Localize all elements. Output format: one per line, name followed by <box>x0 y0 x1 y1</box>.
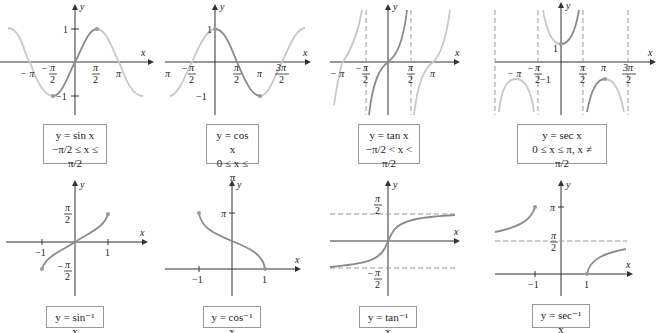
y-label: y <box>79 1 85 12</box>
svg-text:y: y <box>79 179 85 190</box>
caption-tan: y = tan x −π/2 < x < π/2 <box>358 124 420 164</box>
panel-arctan: y x π 2 −π 2 y = tan⁻¹ x <box>330 170 495 333</box>
svg-text:y: y <box>565 179 571 190</box>
svg-text:x: x <box>139 227 145 238</box>
x-axis-arrow-icon <box>142 239 148 245</box>
svg-text:y: y <box>236 179 242 190</box>
svg-text:3π: 3π <box>622 62 634 73</box>
svg-text:π: π <box>375 193 381 204</box>
panel-sin: y x 1 −1 − π − π 2 π 2 π y = sin x −π/2 … <box>0 0 165 170</box>
svg-text:−: − <box>355 63 362 74</box>
svg-text:1: 1 <box>584 279 589 290</box>
svg-text:y: y <box>219 1 225 12</box>
svg-text:2: 2 <box>580 74 585 85</box>
y-axis-arrow-icon <box>558 2 564 8</box>
svg-text:1: 1 <box>105 247 110 258</box>
caption-arccos: y = cos⁻¹ x <box>203 306 261 328</box>
x-axis-arrow-icon <box>295 266 301 272</box>
svg-text:π: π <box>221 208 227 219</box>
svg-text:−1: −1 <box>35 247 46 258</box>
svg-text:x: x <box>647 47 653 58</box>
svg-text:1: 1 <box>553 43 558 54</box>
svg-text:π: π <box>65 259 71 270</box>
y-axis-arrow-icon <box>212 4 218 10</box>
x-axis-arrow-icon <box>454 238 460 244</box>
panel-sec: y x 1 −1 − π −π 2 π 2 π 3π 2 y = sec x 0… <box>495 0 660 170</box>
svg-text:π: π <box>189 62 195 73</box>
svg-text:−1: −1 <box>56 91 67 102</box>
svg-text:π: π <box>551 230 557 241</box>
svg-text:1: 1 <box>262 274 267 285</box>
svg-text:2: 2 <box>93 74 98 85</box>
svg-text:3π: 3π <box>275 62 287 73</box>
svg-text:π: π <box>50 62 56 73</box>
svg-text:2: 2 <box>279 74 284 85</box>
y-axis-arrow-icon <box>385 4 391 10</box>
svg-text:x: x <box>294 254 300 265</box>
y-axis-arrow-icon <box>72 4 78 10</box>
svg-text:2: 2 <box>50 74 55 85</box>
svg-text:−: − <box>181 63 188 74</box>
svg-text:1: 1 <box>63 24 68 35</box>
svg-text:−1: −1 <box>540 74 551 85</box>
svg-text:− π: − π <box>507 68 522 79</box>
x-axis-arrow-icon <box>650 59 656 65</box>
svg-text:π: π <box>165 68 171 79</box>
svg-text:2: 2 <box>626 74 631 85</box>
y-axis-arrow-icon <box>558 180 564 186</box>
svg-text:π: π <box>375 267 381 278</box>
x-axis-arrow-icon <box>627 271 633 277</box>
panel-cos: y x 1 −1 π −π 2 π 2 π 3π 2 y = cos x 0 ≤… <box>165 0 330 170</box>
svg-text:−1: −1 <box>192 274 203 285</box>
svg-text:π: π <box>550 202 556 213</box>
y-axis-arrow-icon <box>72 180 78 186</box>
y-axis-arrow-icon <box>385 180 391 186</box>
caption-arcsec: y = sec⁻¹ x <box>532 304 590 328</box>
panel-arcsec: y x π π 2 −1 1 y = sec⁻¹ x <box>495 170 660 333</box>
caption-sec: y = sec x 0 ≤ x ≤ π, x ≠ π/2 <box>517 124 607 164</box>
svg-text:−: − <box>41 63 48 74</box>
svg-text:y: y <box>392 1 398 12</box>
svg-text:x: x <box>302 47 308 58</box>
svg-text:2: 2 <box>408 74 413 85</box>
svg-text:−1: −1 <box>528 279 539 290</box>
svg-text:x: x <box>625 259 631 270</box>
svg-text:x: x <box>454 47 460 58</box>
caption-arcsin: y = sin⁻¹ x <box>46 306 104 328</box>
svg-text:2: 2 <box>65 214 70 225</box>
panel-arcsin: y x −1 1 π 2 −π 2 y = sin⁻¹ x <box>0 170 165 333</box>
svg-text:1: 1 <box>207 24 212 35</box>
svg-text:2: 2 <box>551 242 556 253</box>
svg-text:π: π <box>93 62 99 73</box>
caption-arctan: y = tan⁻¹ x <box>359 306 417 328</box>
svg-text:π: π <box>580 62 586 73</box>
svg-text:−: − <box>367 268 374 279</box>
panel-arccos: y x π −1 1 y = cos⁻¹ x <box>165 170 330 333</box>
y-axis-arrow-icon <box>229 180 235 186</box>
svg-text:y: y <box>392 179 398 190</box>
svg-text:y: y <box>565 0 571 11</box>
svg-text:2: 2 <box>234 74 239 85</box>
svg-text:−1: −1 <box>196 91 207 102</box>
svg-text:2: 2 <box>189 74 194 85</box>
x-axis-arrow-icon <box>305 59 311 65</box>
x-axis-arrow-icon <box>148 59 154 65</box>
x-label: x <box>140 47 146 58</box>
svg-text:π: π <box>408 62 414 73</box>
svg-text:− π: − π <box>20 68 35 79</box>
svg-text:x: x <box>453 226 459 237</box>
svg-text:π: π <box>535 62 541 73</box>
svg-text:2: 2 <box>363 74 368 85</box>
svg-text:2: 2 <box>375 205 380 216</box>
caption-cos: y = cos x 0 ≤ x ≤ π <box>206 124 259 164</box>
svg-text:− π: − π <box>330 68 345 79</box>
svg-text:−: − <box>57 261 64 272</box>
caption-sin: y = sin x −π/2 ≤ x ≤ π/2 <box>43 124 107 164</box>
svg-text:2: 2 <box>65 271 70 282</box>
svg-text:π: π <box>257 68 263 79</box>
x-axis-arrow-icon <box>454 59 460 65</box>
panel-tan: y x − π −π 2 π 2 π y = tan x −π/2 < x < … <box>330 0 495 170</box>
svg-text:π: π <box>601 62 607 73</box>
svg-text:π: π <box>65 202 71 213</box>
svg-text:2: 2 <box>375 279 380 290</box>
